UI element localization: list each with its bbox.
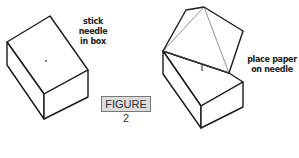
right-caption: place paper on needle	[247, 55, 297, 75]
figure-label: FIGURE 2	[101, 96, 151, 112]
left-caption: stick needle in box	[68, 17, 118, 47]
left-caption-line2: in box	[68, 37, 118, 47]
needle-point-icon	[45, 60, 47, 62]
left-caption-line1: stick needle	[68, 17, 118, 37]
diagram-canvas	[0, 0, 299, 158]
right-caption-line1: place paper	[247, 55, 297, 65]
right-caption-line2: on needle	[247, 65, 297, 75]
